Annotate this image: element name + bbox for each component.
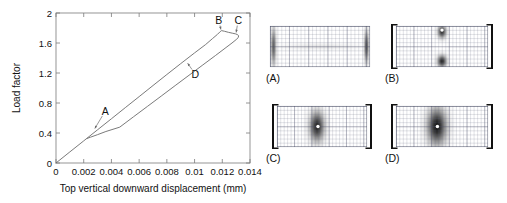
y-axis-title: Load factor (11, 63, 22, 113)
curve-label-b: B (215, 14, 222, 26)
x-tick-label-3: 0.006 (127, 166, 151, 177)
curve-label-d: D (191, 68, 199, 80)
deformation-panel-c (268, 104, 376, 149)
x-tick-label-6: 0.012 (210, 166, 234, 177)
x-tick-label-1: 0.002 (72, 166, 96, 177)
y-tick-label-5: 2 (47, 8, 52, 19)
y-tick-label-0: 0 (47, 158, 52, 169)
y-tick-label-3: 1.2 (39, 68, 52, 79)
x-tick-label-4: 0.008 (155, 166, 179, 177)
x-axis-title: Top vertical downward displacement (mm) (60, 183, 247, 194)
panel-a-caption: (A) (266, 72, 280, 84)
panel-b-mesh-image (387, 24, 497, 69)
y-tick-label-1: 0.4 (39, 128, 52, 139)
panel-b-caption: (B) (385, 72, 399, 84)
curve-label-c: C (234, 14, 242, 26)
x-tick-label-5: 0.01 (185, 166, 204, 177)
y-tick-label-2: 0.8 (39, 98, 52, 109)
panel-c-mesh-image (268, 104, 376, 149)
panel-a-mesh-image (268, 24, 372, 69)
panel-c-caption: (C) (266, 152, 281, 164)
deformation-panel-d (387, 104, 497, 149)
deformation-panel-b (387, 24, 497, 69)
equilibrium-path-curve (56, 31, 239, 163)
panel-d-caption: (D) (385, 152, 400, 164)
annotation-arrows (95, 25, 238, 128)
y-tick-label-4: 1.6 (39, 38, 52, 49)
x-tick-label-2: 0.004 (100, 166, 124, 177)
x-tick-label-0: 0 (53, 166, 58, 177)
panel-d-mesh-image (387, 104, 497, 149)
plot-axes (56, 13, 250, 163)
x-tick-label-7: 0.014 (238, 166, 262, 177)
deformation-panel-a (268, 24, 372, 69)
curve-label-a: A (102, 105, 109, 117)
